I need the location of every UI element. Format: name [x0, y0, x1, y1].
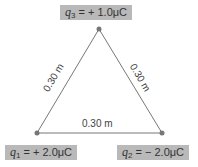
charge-value: = + 2.0μC — [24, 146, 73, 158]
charge-dot-q3 — [97, 27, 102, 32]
distance-bottom: 0.30 m — [82, 118, 113, 129]
charge-label-q2: q2 = − 2.0μC — [117, 145, 189, 160]
triangle-diagram — [0, 0, 198, 167]
charge-label-q1: q1 = + 2.0μC — [5, 145, 77, 160]
charge-subscript: 1 — [16, 151, 20, 160]
charge-subscript: 2 — [128, 151, 132, 160]
charge-value: = + 1.0μC — [79, 6, 128, 18]
charge-label-q3: q3 = + 1.0μC — [60, 5, 132, 20]
charge-dot-q1 — [35, 131, 40, 136]
charge-value: = − 2.0μC — [136, 146, 185, 158]
charge-dot-q2 — [160, 131, 165, 136]
charge-subscript: 3 — [71, 11, 75, 20]
